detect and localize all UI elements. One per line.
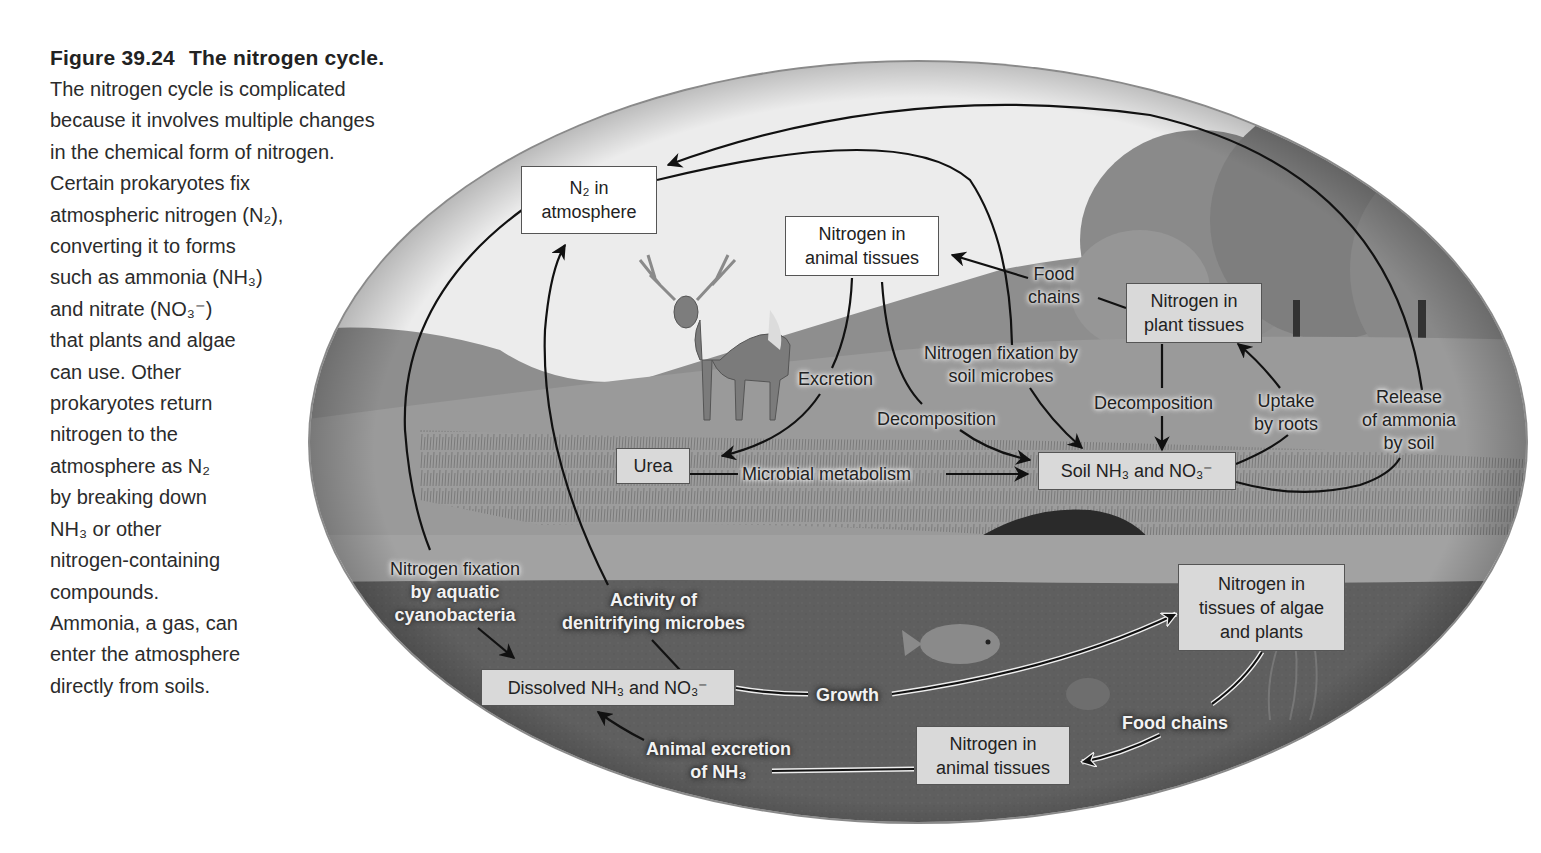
label-line: Animal excretion bbox=[646, 738, 791, 761]
label-line: Nitrogen fixation bbox=[390, 558, 520, 581]
label-animal-excretion: Animal excretion of NH₃ bbox=[646, 738, 791, 784]
box-soil-nh3-no3: Soil NH₃ and NO₃⁻ bbox=[1038, 452, 1236, 490]
label-line: by aquatic bbox=[390, 581, 520, 604]
label-nitrogen-fixation-soil: Nitrogen fixation by soil microbes bbox=[924, 342, 1078, 388]
label-line: denitrifying microbes bbox=[562, 612, 745, 635]
label-decomposition-animal: Decomposition bbox=[877, 408, 996, 431]
label-growth: Growth bbox=[816, 684, 879, 707]
label-uptake-roots: Uptake by roots bbox=[1254, 390, 1318, 436]
label-denitrifying: Activity of denitrifying microbes bbox=[562, 589, 745, 635]
label-line: cyanobacteria bbox=[390, 604, 520, 627]
label-line: Food bbox=[1028, 263, 1080, 286]
box-line: atmosphere bbox=[541, 200, 636, 224]
label-line: chains bbox=[1028, 286, 1080, 309]
box-n2-atmosphere: N₂ in atmosphere bbox=[521, 166, 657, 234]
label-food-chains-water: Food chains bbox=[1122, 712, 1228, 735]
box-line: Soil NH₃ and NO₃⁻ bbox=[1061, 459, 1214, 483]
label-line: of NH₃ bbox=[646, 761, 791, 784]
box-line: N₂ in bbox=[570, 176, 609, 200]
label-decomposition-plant: Decomposition bbox=[1094, 392, 1213, 415]
label-microbial-metabolism: Microbial metabolism bbox=[742, 463, 911, 486]
label-line: by roots bbox=[1254, 413, 1318, 436]
box-line: Nitrogen in bbox=[1150, 289, 1237, 313]
box-line: and plants bbox=[1220, 620, 1303, 644]
label-line: by soil bbox=[1362, 432, 1456, 455]
box-line: Nitrogen in bbox=[949, 732, 1036, 756]
box-line: Urea bbox=[633, 454, 672, 478]
box-line: animal tissues bbox=[936, 756, 1050, 780]
label-line: of ammonia bbox=[1362, 409, 1456, 432]
box-line: plant tissues bbox=[1144, 313, 1244, 337]
label-line: Activity of bbox=[562, 589, 745, 612]
label-line: Nitrogen fixation by bbox=[924, 342, 1078, 365]
box-line: Nitrogen in bbox=[1218, 572, 1305, 596]
label-line: Release bbox=[1362, 386, 1456, 409]
label-food-chains-land: Food chains bbox=[1028, 263, 1080, 309]
box-line: Nitrogen in bbox=[818, 222, 905, 246]
label-line: soil microbes bbox=[924, 365, 1078, 388]
label-excretion: Excretion bbox=[798, 368, 873, 391]
label-release-ammonia: Release of ammonia by soil bbox=[1362, 386, 1456, 455]
box-dissolved-nh3-no3: Dissolved NH₃ and NO₃⁻ bbox=[481, 669, 735, 706]
box-animal-tissues-water: Nitrogen in animal tissues bbox=[916, 726, 1070, 785]
box-algae-plants-tissues: Nitrogen in tissues of algae and plants bbox=[1178, 564, 1345, 651]
box-urea: Urea bbox=[616, 448, 690, 484]
box-animal-tissues-land: Nitrogen in animal tissues bbox=[785, 216, 939, 276]
box-line: animal tissues bbox=[805, 246, 919, 270]
box-plant-tissues: Nitrogen in plant tissues bbox=[1126, 283, 1262, 343]
box-line: tissues of algae bbox=[1199, 596, 1324, 620]
label-nitrogen-fixation-aquatic: Nitrogen fixation by aquatic cyanobacter… bbox=[390, 558, 520, 627]
box-line: Dissolved NH₃ and NO₃⁻ bbox=[508, 676, 709, 700]
label-line: Uptake bbox=[1254, 390, 1318, 413]
